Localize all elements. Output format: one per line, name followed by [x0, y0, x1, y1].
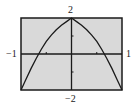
- chart: [0, 0, 136, 108]
- y-max-label: 2: [68, 5, 73, 15]
- x-max-label: 1: [126, 49, 131, 59]
- x-min-label: −1: [6, 49, 17, 59]
- y-min-label: −2: [65, 94, 76, 104]
